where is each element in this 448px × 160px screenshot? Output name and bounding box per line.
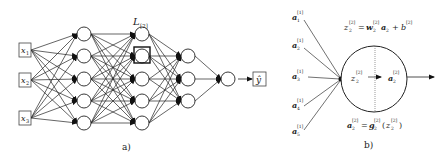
panel-b-neuron: z [2] 2 a [2] 2 a[1]1a[1]2a[1]3a[1]4a[1]… <box>292 10 434 150</box>
neuron-l1-0 <box>77 27 91 41</box>
caption-a: a) <box>122 142 131 152</box>
equation-z: z [2] 2 = w [2] 2 a 2 + b [2] <box>343 20 413 33</box>
svg-text:[2]: [2] <box>140 23 148 29</box>
svg-text:[2]: [2] <box>406 20 413 25</box>
svg-text:2: 2 <box>352 126 355 131</box>
svg-text:(: ( <box>382 121 385 130</box>
neuron-l3-0 <box>181 49 195 63</box>
svg-text:5: 5 <box>297 132 300 137</box>
neuron-l1-1 <box>77 49 91 63</box>
neuron-l2-3 <box>135 94 149 108</box>
svg-text:[2]: [2] <box>356 70 363 75</box>
svg-text:): ) <box>399 121 402 130</box>
diagram-canvas: x 1 x 2 x 3 L [2] ŷ a) <box>0 0 448 160</box>
input-a4: a[1]4 <box>292 98 304 111</box>
neuron-l1-3 <box>77 94 91 108</box>
neuron-l1-2 <box>77 72 91 86</box>
neuron-l2-2 <box>135 72 149 86</box>
svg-text:2: 2 <box>374 126 377 131</box>
input-a1: a[1]1 <box>292 10 304 23</box>
svg-text:2: 2 <box>26 80 29 86</box>
layer-label: L [2] <box>132 16 148 29</box>
input-a3: a[1]3 <box>292 69 304 82</box>
equation-a: a [2] 2 = g [2] 2 ( z [2] 2 ) <box>347 118 402 131</box>
caption-b: b) <box>364 140 373 150</box>
neuron-l4-0 <box>221 72 235 86</box>
neuron-l2-0 <box>135 27 149 41</box>
input-x3: x 3 <box>19 111 31 125</box>
svg-text:=: = <box>358 23 365 32</box>
svg-text:2: 2 <box>297 46 300 51</box>
input-a5: a[1]5 <box>292 124 304 137</box>
svg-text:[1]: [1] <box>297 98 304 103</box>
svg-text:[2]: [2] <box>352 118 359 123</box>
svg-text:[2]: [2] <box>373 20 380 25</box>
svg-text:[2]: [2] <box>391 118 398 123</box>
input-a2: a[1]2 <box>292 38 304 51</box>
svg-text:1: 1 <box>26 50 29 56</box>
svg-text:1: 1 <box>297 18 300 23</box>
neuron-l1-4 <box>77 116 91 130</box>
input-x1: x 1 <box>19 43 31 57</box>
panel-a-network: x 1 x 2 x 3 L [2] ŷ a) <box>19 16 266 152</box>
svg-text:2: 2 <box>356 79 359 84</box>
svg-text:[2]: [2] <box>349 20 356 25</box>
svg-text:[1]: [1] <box>297 124 304 129</box>
svg-text:L: L <box>132 16 140 27</box>
svg-text:[1]: [1] <box>297 10 304 15</box>
neuron-l2-1 <box>135 49 149 63</box>
neuron-l2-4 <box>135 116 149 130</box>
svg-text:4: 4 <box>297 106 300 111</box>
neuron-l3-2 <box>181 94 195 108</box>
svg-text:+: + <box>392 23 399 32</box>
svg-text:2: 2 <box>386 28 389 33</box>
svg-text:[2]: [2] <box>393 70 400 75</box>
svg-text:[1]: [1] <box>297 38 304 43</box>
svg-text:ŷ: ŷ <box>255 75 262 85</box>
neuron-l3-1 <box>181 72 195 86</box>
svg-text:[1]: [1] <box>297 69 304 74</box>
svg-text:2: 2 <box>393 79 396 84</box>
svg-text:3: 3 <box>297 77 300 82</box>
svg-text:=: = <box>361 121 368 130</box>
svg-text:2: 2 <box>373 28 376 33</box>
input-x2: x 2 <box>19 73 31 87</box>
svg-text:3: 3 <box>26 118 29 124</box>
output-y-hat: ŷ <box>253 72 266 86</box>
svg-text:2: 2 <box>391 126 394 131</box>
svg-text:2: 2 <box>349 28 352 33</box>
svg-text:[2]: [2] <box>374 118 381 123</box>
